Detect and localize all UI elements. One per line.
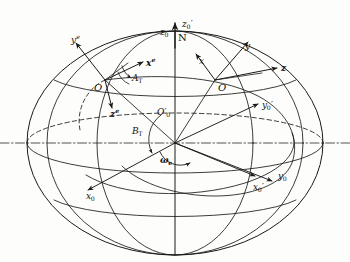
earth-reference-frame-diagram [0,0,350,262]
label-axis-y: y [245,42,250,51]
label-axis-ze: ze [110,110,119,119]
label-axis-z: z [281,64,286,73]
label-axis-x0: x0 [86,192,95,201]
right-station-tick [215,73,262,80]
label-station-right: O [218,83,226,93]
label-center-origin: O′0 [157,108,170,117]
axis-ye-line [76,43,105,80]
label-axis-y0-prime: y0′ [262,101,273,110]
label-axis-x0-prime: x0′ [253,183,264,192]
label-axis-ye: ye [71,36,80,45]
label-axis-y0: y0 [278,172,287,181]
station-great-circle-front [105,77,295,196]
label-axis-x: x [199,57,204,66]
label-z0: z0 [160,28,169,37]
figure-container: z0 z0′ N ye xe ze O O x y z AT BT O′0 ωe… [0,0,350,262]
label-elevation-angle: BT [132,127,143,136]
label-z0-prime: z0′ [182,20,193,29]
label-earth-rotation-rate: ωe [160,156,173,165]
label-axis-xe: xe [146,59,155,68]
label-north-pole: N [178,33,187,43]
axis-x0prime-line [175,143,255,176]
axis-x0-line [88,143,175,190]
label-station-left: O [94,83,102,93]
label-azimuth-angle: AT [132,74,143,83]
